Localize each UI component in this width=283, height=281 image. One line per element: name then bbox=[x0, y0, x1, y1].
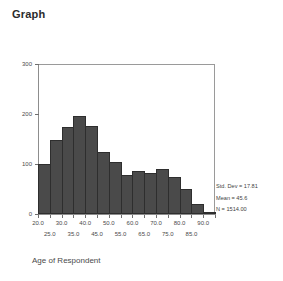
x-axis-tick bbox=[191, 215, 192, 218]
x-axis-tick bbox=[156, 215, 157, 218]
x-axis-tick-label: 65.0 bbox=[133, 231, 155, 237]
x-axis-tick bbox=[215, 215, 216, 218]
x-axis-tick bbox=[85, 215, 86, 218]
x-axis-tick-label: 50.0 bbox=[98, 220, 120, 226]
x-axis-tick bbox=[109, 215, 110, 218]
stat-n: N = 1514.00 bbox=[216, 207, 258, 213]
y-axis-tick-label: 200 bbox=[6, 111, 32, 117]
y-axis-tick-label: 100 bbox=[6, 161, 32, 167]
x-axis-tick-label: 35.0 bbox=[62, 231, 84, 237]
x-axis-title: Age of Respondent bbox=[32, 256, 101, 265]
x-axis-tick-label: 20.0 bbox=[27, 220, 49, 226]
x-axis-tick bbox=[97, 215, 98, 218]
x-axis-tick-label: 55.0 bbox=[110, 231, 132, 237]
bar-series bbox=[39, 64, 215, 214]
x-axis-tick-label: 70.0 bbox=[145, 220, 167, 226]
x-axis-tick bbox=[180, 215, 181, 218]
x-axis-tick bbox=[132, 215, 133, 218]
y-axis-tick-label: 0 bbox=[6, 211, 32, 217]
histogram-chart: 0100200300 20.030.040.050.060.070.080.09… bbox=[0, 0, 283, 281]
x-axis-tick-label: 75.0 bbox=[157, 231, 179, 237]
x-axis-tick-label: 25.0 bbox=[39, 231, 61, 237]
x-axis-tick bbox=[50, 215, 51, 218]
y-axis-tick-label: 300 bbox=[6, 61, 32, 67]
x-axis-tick bbox=[144, 215, 145, 218]
x-axis-tick bbox=[121, 215, 122, 218]
x-axis-tick-label: 85.0 bbox=[180, 231, 202, 237]
statistics-annotation: Std. Dev = 17.81 Mean = 45.6 N = 1514.00 bbox=[216, 184, 258, 213]
x-axis-tick bbox=[62, 215, 63, 218]
x-axis-line bbox=[38, 214, 216, 215]
x-axis-tick bbox=[203, 215, 204, 218]
x-axis-tick-label: 30.0 bbox=[51, 220, 73, 226]
x-axis-tick-label: 90.0 bbox=[192, 220, 214, 226]
x-axis-tick-label: 80.0 bbox=[169, 220, 191, 226]
x-axis-tick bbox=[38, 215, 39, 218]
histogram-bar bbox=[203, 212, 216, 215]
stat-mean: Mean = 45.6 bbox=[216, 196, 258, 202]
x-axis-tick-label: 60.0 bbox=[121, 220, 143, 226]
x-axis-tick-label: 45.0 bbox=[86, 231, 108, 237]
x-axis-tick bbox=[168, 215, 169, 218]
stat-std-dev: Std. Dev = 17.81 bbox=[216, 184, 258, 190]
x-axis-tick-label: 40.0 bbox=[74, 220, 96, 226]
x-axis-tick bbox=[73, 215, 74, 218]
